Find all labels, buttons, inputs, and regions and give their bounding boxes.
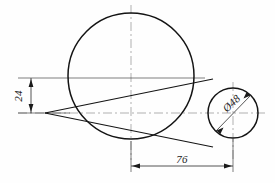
horizontal-dimension-group: 76 xyxy=(131,153,233,168)
centerline-group xyxy=(18,5,268,160)
horizontal-dimension-label: 76 xyxy=(176,153,188,165)
horizontal-arrow-left xyxy=(132,164,140,169)
horizontal-arrow-right xyxy=(224,164,232,169)
diameter-dimension-label: Ø48 xyxy=(219,92,242,115)
drawing-sheet: 24 76 Ø48 xyxy=(0,0,275,183)
vertical-dimension-label: 24 xyxy=(12,90,24,102)
diameter-arrow-upper xyxy=(244,92,251,99)
upper-tangent-line xyxy=(45,79,213,113)
extension-line-group xyxy=(18,78,233,172)
technical-drawing-canvas: 24 76 Ø48 xyxy=(0,0,275,183)
vertical-arrow-top xyxy=(29,79,34,87)
lower-tangent-line xyxy=(45,113,213,147)
vertical-arrow-bottom xyxy=(29,104,34,112)
vertical-dimension-group: 24 xyxy=(12,78,33,113)
